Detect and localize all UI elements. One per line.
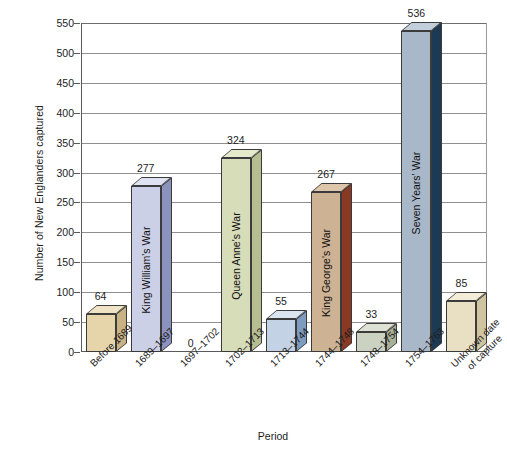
x-axis-title-text: Period — [258, 430, 288, 442]
x-tick-label: 1754–1763 — [403, 326, 446, 369]
x-tick-label: 1702–1713 — [223, 326, 266, 369]
x-tick-label: Unknown dateof capture — [448, 316, 507, 380]
x-tick-label: 1748–1754 — [358, 326, 401, 369]
x-tick-label: 1689–1697 — [133, 326, 176, 369]
x-axis-title: Period — [0, 430, 502, 442]
x-tick-label: 1713–1744 — [268, 326, 311, 369]
x-tick-label: Before 1689 — [88, 322, 134, 368]
x-tick-label: 1744–1748 — [313, 326, 356, 369]
x-tick-label: 1697–1702 — [178, 326, 221, 369]
